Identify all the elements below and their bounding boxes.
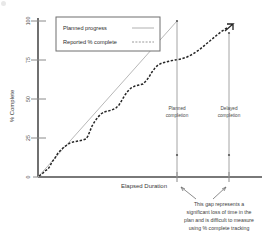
annotation-line-3: plan and is difficult to measure: [184, 217, 254, 223]
y-tick-label-75: 75: [25, 57, 31, 63]
marker-dot-delayed-bottom: [228, 154, 230, 156]
legend-label-reported-complete: Reported % complete: [63, 39, 117, 45]
y-tick-label-0: 0: [25, 175, 31, 178]
marker-dot-planned-top: [176, 20, 178, 22]
marker-label-planned-line1: Planned: [168, 106, 186, 111]
gap-pointer-left: [181, 187, 196, 199]
marker-dot-delayed-top: [228, 32, 230, 34]
annotation-line-1: This gap represents a: [194, 201, 244, 207]
y-axis-title: % Complete: [9, 89, 15, 122]
annotation-line-4: using % complete tracking: [189, 225, 250, 231]
marker-label-delayed-line2: completion: [218, 113, 241, 118]
chart-container: 100 75 50 25 0 % Complete Elapsed Durati…: [0, 0, 272, 238]
y-tick-label-50: 50: [25, 96, 31, 102]
annotation-line-2: significant loss of time in the: [187, 209, 252, 215]
legend-box: [56, 17, 160, 51]
y-tick-label-100: 100: [25, 17, 31, 26]
gap-pointer-right: [213, 187, 226, 199]
marker-label-planned-line2: completion: [166, 113, 189, 118]
marker-dot-planned-bottom: [176, 154, 178, 156]
corner-mark: [1, 1, 6, 6]
y-tick-label-25: 25: [25, 135, 31, 141]
reported-curve-arrowhead: [225, 24, 233, 31]
legend-label-planned-progress: Planned progress: [63, 25, 107, 31]
x-axis-title: Elapsed Duration: [121, 183, 167, 189]
marker-label-delayed-line1: Delayed: [220, 106, 238, 111]
